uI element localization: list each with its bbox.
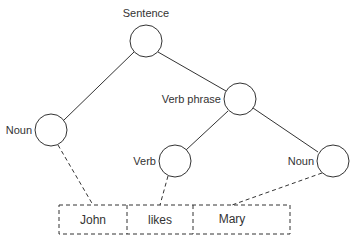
edge-verbphrase-verb <box>186 111 228 150</box>
node-sentence <box>130 25 162 57</box>
word-likes: likes <box>148 213 172 227</box>
node-verb-phrase <box>224 83 256 115</box>
label-verb: Verb <box>133 155 156 167</box>
label-sentence: Sentence <box>123 7 169 19</box>
node-noun-right <box>317 145 349 177</box>
word-mary: Mary <box>219 212 246 226</box>
link-noun-john <box>58 145 93 205</box>
label-verb-phrase: Verb phrase <box>162 93 221 105</box>
word-links <box>58 145 322 205</box>
node-verb <box>159 145 191 177</box>
parse-tree-diagram: Sentence Noun Verb phrase Verb Noun John… <box>0 0 361 247</box>
edge-verbphrase-noun <box>253 108 318 152</box>
link-noun-mary <box>232 173 322 205</box>
link-verb-likes <box>160 176 168 205</box>
label-noun-left: Noun <box>6 124 32 136</box>
edge-sentence-noun <box>64 52 134 120</box>
label-noun-right: Noun <box>288 155 314 167</box>
edge-sentence-verb-phrase <box>158 52 226 91</box>
node-noun-left <box>35 114 67 146</box>
word-john: John <box>80 213 106 227</box>
